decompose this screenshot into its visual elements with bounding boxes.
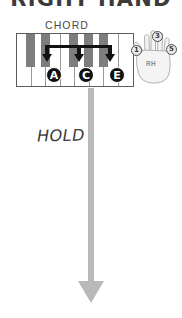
note-circle-a[interactable]: A [46, 67, 62, 83]
page-title: RIGHT HAND [0, 0, 182, 11]
black-key[interactable] [99, 34, 108, 67]
finger-number-3: 3 [152, 31, 163, 42]
hold-arrow-stem [88, 88, 94, 284]
note-arrow-head [74, 54, 84, 62]
black-key[interactable] [84, 34, 93, 67]
hand-label: RH [146, 60, 156, 67]
hold-arrow-head [78, 281, 104, 303]
finger-number-5: 5 [166, 44, 177, 55]
note-arrow-head [105, 54, 115, 62]
finger-number-1: 1 [131, 45, 142, 56]
chord-label: CHORD [0, 19, 134, 31]
hold-label: HOLD [37, 125, 85, 145]
chord-diagram: RIGHT HAND CHORD A C E [0, 0, 182, 318]
note-circle-e[interactable]: E [109, 67, 125, 83]
black-key[interactable] [26, 34, 35, 67]
note-circle-c[interactable]: C [78, 67, 94, 83]
note-arrow-head [42, 54, 52, 62]
